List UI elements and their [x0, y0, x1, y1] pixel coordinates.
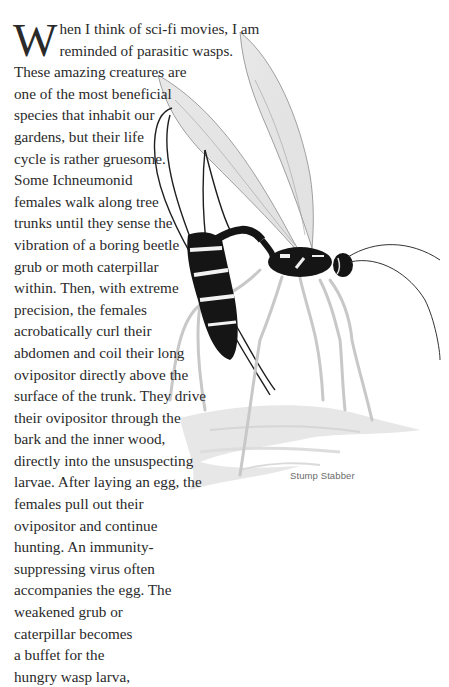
text-line: trunks until they sense the [14, 212, 254, 234]
text-line: directly into the unsuspecting [14, 450, 254, 472]
text-line: gardens, but their life [14, 126, 254, 148]
text-line: suppressing virus often [14, 558, 254, 580]
text-line: acrobatically curl their [14, 320, 254, 342]
text-line: abdomen and coil their long [14, 342, 254, 364]
text-line: precision, the females [14, 299, 254, 321]
text-line: surface of the trunk. They drive [14, 385, 254, 407]
thorax [262, 240, 332, 277]
text-line: a buffet for the [14, 644, 254, 666]
text-line: ovipositor directly above the [14, 364, 254, 386]
antennae [348, 245, 440, 360]
text-line: their ovipositor through the [14, 407, 254, 429]
text-line: caterpillar becomes [14, 623, 254, 645]
article-body: W hen I think of sci-fi movies, I am rem… [14, 18, 254, 687]
text-line: larvae. After laying an egg, the [14, 471, 254, 493]
text-line: grub or moth caterpillar [14, 256, 254, 278]
text-line: Some Ichneumonid [14, 169, 254, 191]
text-line: within. Then, with extreme [14, 277, 254, 299]
text-line: hunting. An immunity- [14, 536, 254, 558]
text-line: hungry wasp larva, [14, 666, 254, 687]
text-line: ovipositor and continue [14, 515, 254, 537]
head [333, 253, 353, 277]
illustration-caption: Stump Stabber [290, 470, 355, 481]
text-line: weakened grub or [14, 601, 254, 623]
text-line: females walk along tree [14, 191, 254, 213]
text-line: accompanies the egg. The [14, 579, 254, 601]
text-line: bark and the inner wood, [14, 428, 254, 450]
text-line: species that inhabit our [14, 104, 254, 126]
text-line: vibration of a boring beetle [14, 234, 254, 256]
text-line: These amazing creatures are [14, 61, 254, 83]
text-line: cycle is rather gruesome. [14, 148, 254, 170]
text-line: one of the most beneficial [14, 83, 254, 105]
drop-cap: W [13, 22, 57, 58]
text-line: females pull out their [14, 493, 254, 515]
